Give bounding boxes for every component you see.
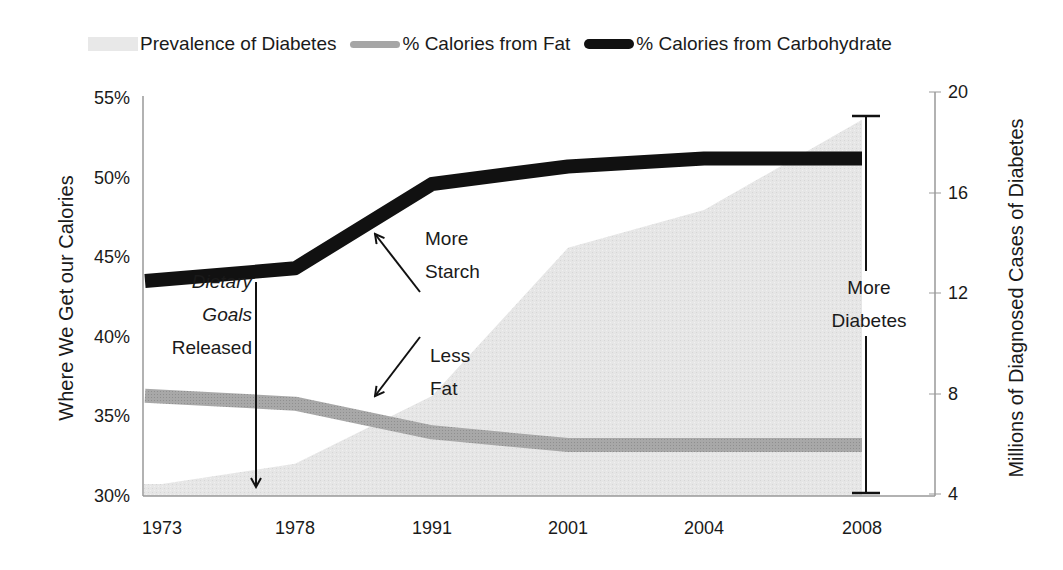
right-tick: 8 <box>948 384 958 405</box>
less-fat-annotation: Less Fat <box>430 339 470 405</box>
fat-line1: Less <box>430 339 470 372</box>
diabetes-line1: More <box>818 271 920 304</box>
carb-line-swatch-icon <box>584 39 634 49</box>
x-tick: 2008 <box>842 518 882 539</box>
left-axis-title: Where We Get our Calories <box>55 175 78 420</box>
dietary-line2: Goals <box>158 298 252 331</box>
right-axis-title: Millions of Diagnosed Cases of Diabetes <box>1005 118 1028 477</box>
left-tick: 50% <box>94 168 130 189</box>
legend-label-diabetes: Prevalence of Diabetes <box>140 33 336 55</box>
starch-line2: Starch <box>425 255 480 288</box>
area-swatch-icon <box>88 37 138 51</box>
starch-line1: More <box>425 222 480 255</box>
legend-item-diabetes: Prevalence of Diabetes <box>88 33 336 55</box>
less-fat-arrow-icon <box>375 337 420 396</box>
fat-line-swatch-icon <box>350 41 400 48</box>
x-tick: 1991 <box>412 518 452 539</box>
left-tick: 30% <box>94 486 130 507</box>
right-tick: 20 <box>948 82 968 103</box>
legend-item-carb: % Calories from Carbohydrate <box>584 33 892 55</box>
diabetes-line2: Diabetes <box>818 304 920 337</box>
left-tick: 40% <box>94 327 130 348</box>
fat-line2: Fat <box>430 372 470 405</box>
x-tick: 1978 <box>275 518 315 539</box>
chart-legend: Prevalence of Diabetes % Calories from F… <box>88 33 906 55</box>
right-tick: 12 <box>948 283 968 304</box>
dietary-goals-annotation: Dietary Goals Released <box>158 265 252 364</box>
x-tick: 1973 <box>142 518 182 539</box>
more-starch-annotation: More Starch <box>425 222 480 288</box>
more-starch-arrow-icon <box>375 234 420 292</box>
right-tick: 16 <box>948 183 968 204</box>
dietary-line1: Dietary <box>158 265 252 298</box>
left-tick: 35% <box>94 406 130 427</box>
x-tick: 2004 <box>684 518 724 539</box>
dietary-line3: Released <box>158 331 252 364</box>
more-diabetes-annotation: More Diabetes <box>818 271 920 337</box>
left-tick: 45% <box>94 247 130 268</box>
legend-item-fat: % Calories from Fat <box>350 33 570 55</box>
left-tick: 55% <box>94 88 130 109</box>
right-tick: 4 <box>948 484 958 505</box>
legend-label-fat: % Calories from Fat <box>402 33 570 55</box>
legend-label-carb: % Calories from Carbohydrate <box>636 33 892 55</box>
x-tick: 2001 <box>548 518 588 539</box>
